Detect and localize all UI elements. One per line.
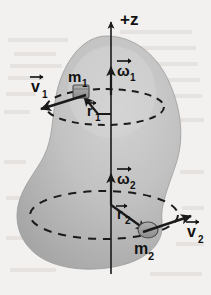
- r-1-glyph: r: [87, 103, 93, 119]
- r-2-subscript: 2: [125, 215, 131, 226]
- v-1-glyph: v: [31, 78, 40, 95]
- v-2-label: v 2: [186, 219, 204, 245]
- omega-1-subscript: 1: [130, 72, 136, 83]
- m-2-subscript: 2: [148, 250, 154, 262]
- v-1-subscript: 1: [42, 89, 48, 100]
- r-2-glyph: r: [117, 206, 123, 222]
- m-1-glyph: m: [68, 68, 81, 85]
- v-2-glyph: v: [187, 223, 196, 240]
- v-2-subscript: 2: [198, 234, 204, 245]
- v-1-label: v 1: [30, 74, 48, 100]
- omega-2-glyph: ω: [117, 170, 130, 187]
- rigid-body-rotation-diagram: +z ω 1 v 1 m 1 r 1 ω 2 r 2 m: [0, 0, 211, 295]
- omega-2-subscript: 2: [130, 180, 136, 191]
- r-1-subscript: 1: [95, 112, 101, 123]
- omega-1-glyph: ω: [117, 62, 130, 79]
- m-1-subscript: 1: [82, 78, 88, 89]
- z-axis-label: +z: [120, 10, 138, 29]
- m-2-glyph: m: [134, 240, 148, 257]
